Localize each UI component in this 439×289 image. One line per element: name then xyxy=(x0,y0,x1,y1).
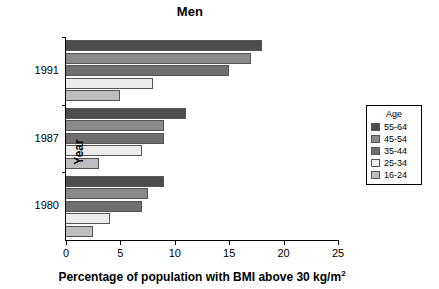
x-axis-tick xyxy=(338,240,339,245)
x-axis-tick xyxy=(175,240,176,245)
legend-swatch xyxy=(371,135,380,143)
x-axis-title-superscript: 2 xyxy=(341,269,345,278)
legend-item: 45-54 xyxy=(371,134,417,144)
bar-row xyxy=(66,108,338,119)
legend-swatch xyxy=(371,123,380,131)
y-axis-group-separator xyxy=(62,172,66,173)
bar-row xyxy=(66,90,338,101)
x-axis-tick xyxy=(66,240,67,245)
bar-row xyxy=(66,53,338,64)
x-axis-title-text: Percentage of population with BMI above … xyxy=(58,270,341,284)
bar xyxy=(66,40,262,51)
bar-row xyxy=(66,145,338,156)
x-axis-tick xyxy=(229,240,230,245)
bar-row xyxy=(66,158,338,169)
y-axis-top-tick xyxy=(62,37,66,38)
bar-row xyxy=(66,78,338,89)
legend-label: 35-44 xyxy=(384,146,407,156)
legend-label: 55-64 xyxy=(384,122,407,132)
bar xyxy=(66,226,93,237)
bar-group xyxy=(66,105,338,173)
y-axis-group-separator xyxy=(62,105,66,106)
y-axis-tick-label: 1987 xyxy=(25,132,59,144)
legend-item: 25-34 xyxy=(371,158,417,168)
legend-item: 55-64 xyxy=(371,122,417,132)
x-axis-tick-label: 5 xyxy=(105,247,135,259)
bar xyxy=(66,65,229,76)
bar-row xyxy=(66,188,338,199)
y-axis-tick-label: 1991 xyxy=(25,64,59,76)
legend-item: 16-24 xyxy=(371,170,417,180)
legend-swatch xyxy=(371,171,380,179)
bar-row xyxy=(66,40,338,51)
chart-title: Men xyxy=(0,4,380,19)
x-axis-line xyxy=(65,240,339,241)
bar xyxy=(66,213,110,224)
bmi-bar-chart-figure: Men 199119871980 0510152025 Year Percent… xyxy=(0,0,439,289)
bar-group xyxy=(66,37,338,105)
bar-row xyxy=(66,213,338,224)
legend-label: 45-54 xyxy=(384,134,407,144)
bar xyxy=(66,90,120,101)
bar-group xyxy=(66,172,338,240)
plot-area: 199119871980 0510152025 Year Percentage … xyxy=(66,37,338,240)
x-axis-tick-label: 20 xyxy=(269,247,299,259)
x-axis-tick-label: 15 xyxy=(214,247,244,259)
x-axis-tick-label: 0 xyxy=(51,247,81,259)
bar-row xyxy=(66,176,338,187)
legend-title: Age xyxy=(371,109,417,119)
bar-row xyxy=(66,201,338,212)
legend-swatch xyxy=(371,147,380,155)
legend-items: 55-6445-5435-4425-3416-24 xyxy=(371,122,417,180)
legend-label: 25-34 xyxy=(384,158,407,168)
bar xyxy=(66,53,251,64)
bar xyxy=(66,78,153,89)
legend-label: 16-24 xyxy=(384,170,407,180)
x-axis-tick-label: 25 xyxy=(323,247,353,259)
legend-item: 35-44 xyxy=(371,146,417,156)
legend-swatch xyxy=(371,159,380,167)
legend-box: Age 55-6445-5435-4425-3416-24 xyxy=(366,105,422,185)
bar-row xyxy=(66,226,338,237)
y-axis-title: Year xyxy=(72,117,86,187)
bar xyxy=(66,188,148,199)
x-axis-tick-label: 10 xyxy=(160,247,190,259)
x-axis-tick xyxy=(120,240,121,245)
bar xyxy=(66,201,142,212)
x-axis-tick xyxy=(284,240,285,245)
y-axis-tick-label: 1980 xyxy=(25,199,59,211)
x-axis-title: Percentage of population with BMI above … xyxy=(6,269,398,284)
bar-row xyxy=(66,65,338,76)
bar-row xyxy=(66,133,338,144)
bar-row xyxy=(66,120,338,131)
